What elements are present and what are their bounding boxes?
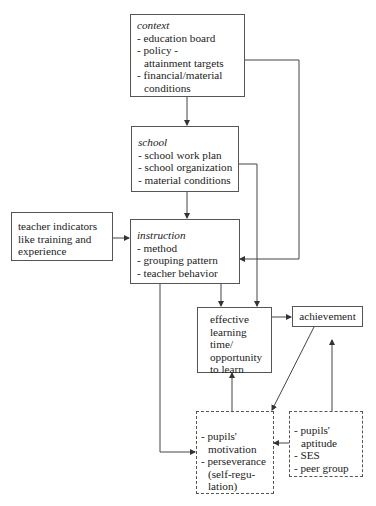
school-title: school	[138, 136, 233, 149]
arrow-achievement-to-motivation	[272, 327, 314, 410]
teacher-line: experience	[18, 245, 107, 258]
aptitude-item: - peer group	[294, 462, 357, 475]
instruction-item: - method	[137, 242, 234, 255]
arrow-instruction-to-motivation	[160, 283, 195, 452]
instruction-item: - grouping pattern	[137, 254, 234, 267]
school-item: - school work plan	[138, 149, 233, 162]
aptitude-item: - SES	[294, 449, 357, 462]
motivation-item: (self-regu-	[201, 468, 268, 481]
motivation-item: - perseverance	[201, 455, 268, 468]
effective-line: opportunity	[210, 351, 266, 364]
achievement-box: achievement	[292, 306, 363, 327]
instruction-item: - teacher behavior	[137, 267, 234, 280]
arrow-context-to-instruction	[240, 60, 299, 259]
context-item: - education board	[137, 32, 239, 45]
context-item: - financial/material	[137, 69, 239, 82]
motivation-item: - pupils'	[201, 430, 268, 443]
aptitude-item: - pupils'	[294, 424, 357, 437]
effective-line: time/	[210, 338, 266, 351]
effective-line: effective	[210, 313, 266, 326]
teacher-indicators-box: teacher indicators like training and exp…	[11, 212, 113, 261]
context-box: context - education board - policy - att…	[130, 14, 245, 97]
motivation-item: motivation	[201, 443, 268, 456]
context-item: conditions	[137, 82, 239, 95]
motivation-item: lation)	[201, 480, 268, 493]
teacher-line: like training and	[18, 233, 107, 246]
context-item: - policy -	[137, 44, 239, 57]
effective-learning-time-box: effective learning time/ opportunity to …	[197, 307, 272, 373]
instruction-title: instruction	[137, 229, 234, 242]
teacher-line: teacher indicators	[18, 220, 107, 233]
school-item: - material conditions	[138, 174, 233, 187]
school-box: school - school work plan - school organ…	[131, 126, 239, 192]
pupils-aptitude-box: - pupils' aptitude - SES - peer group	[289, 411, 363, 477]
school-item: - school organization	[138, 161, 233, 174]
effective-line: to learn	[210, 363, 266, 376]
aptitude-item: aptitude	[294, 437, 357, 450]
context-item: attainment targets	[137, 57, 239, 70]
achievement-label: achievement	[293, 310, 362, 323]
effective-line: learning	[210, 326, 266, 339]
pupils-motivation-box: - pupils' motivation - perseverance (sel…	[196, 411, 274, 494]
instruction-box: instruction - method - grouping pattern …	[130, 219, 240, 284]
arrow-school-to-effective	[238, 164, 257, 306]
context-title: context	[137, 19, 239, 32]
